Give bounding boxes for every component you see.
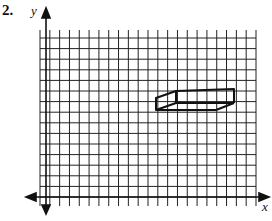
coordinate-grid [0, 0, 272, 221]
prism-bottom-back-edge [216, 103, 234, 110]
y-axis-arrow-up-icon [42, 8, 50, 18]
y-axis-arrow-down-icon [42, 205, 50, 214]
x-axis-arrow-left-icon [26, 193, 36, 201]
prism-front-face [156, 91, 176, 110]
x-axis-arrow-right-icon [259, 193, 269, 201]
grid-lines [40, 30, 256, 206]
